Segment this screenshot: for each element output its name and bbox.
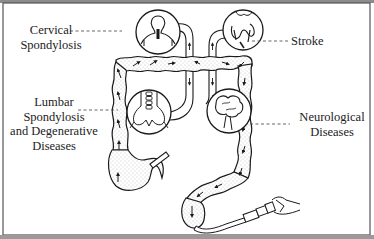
hand: [272, 197, 300, 214]
label-cervical: Cervical Spondylosis: [11, 23, 91, 52]
sigmoid-colon: [186, 172, 248, 204]
colon-flow-arrows: [118, 61, 245, 216]
label-lumbar-line3: and Degenerative: [4, 124, 104, 139]
cecum: [109, 150, 164, 190]
label-neurological-line1: Neurological: [292, 110, 372, 125]
label-stroke: Stroke: [291, 34, 324, 49]
label-neurological-line2: Diseases: [292, 125, 372, 140]
inset-brain-stroke: [223, 10, 263, 50]
rectum: [182, 198, 205, 228]
label-cervical-line1: Cervical: [11, 23, 91, 38]
enema-tube: [194, 202, 275, 233]
label-lumbar-line2: Spondylosis: [4, 110, 104, 125]
inset-lumbar-spine: [127, 90, 171, 134]
label-neurological: Neurological Diseases: [292, 110, 372, 139]
label-lumbar-line1: Lumbar: [4, 95, 104, 110]
label-stroke-line1: Stroke: [291, 34, 324, 49]
label-cervical-line2: Spondylosis: [11, 38, 91, 53]
diagram-frame: Cervical Spondylosis Stroke Lumbar Spond…: [0, 0, 374, 239]
colon: [109, 56, 252, 228]
bottom-band: [0, 235, 374, 239]
label-lumbar: Lumbar Spondylosis and Degenerative Dise…: [4, 95, 104, 153]
inset-cervical-spine: [136, 10, 180, 54]
label-lumbar-line4: Diseases: [4, 139, 104, 154]
inset-brain-neurological: [207, 89, 251, 133]
